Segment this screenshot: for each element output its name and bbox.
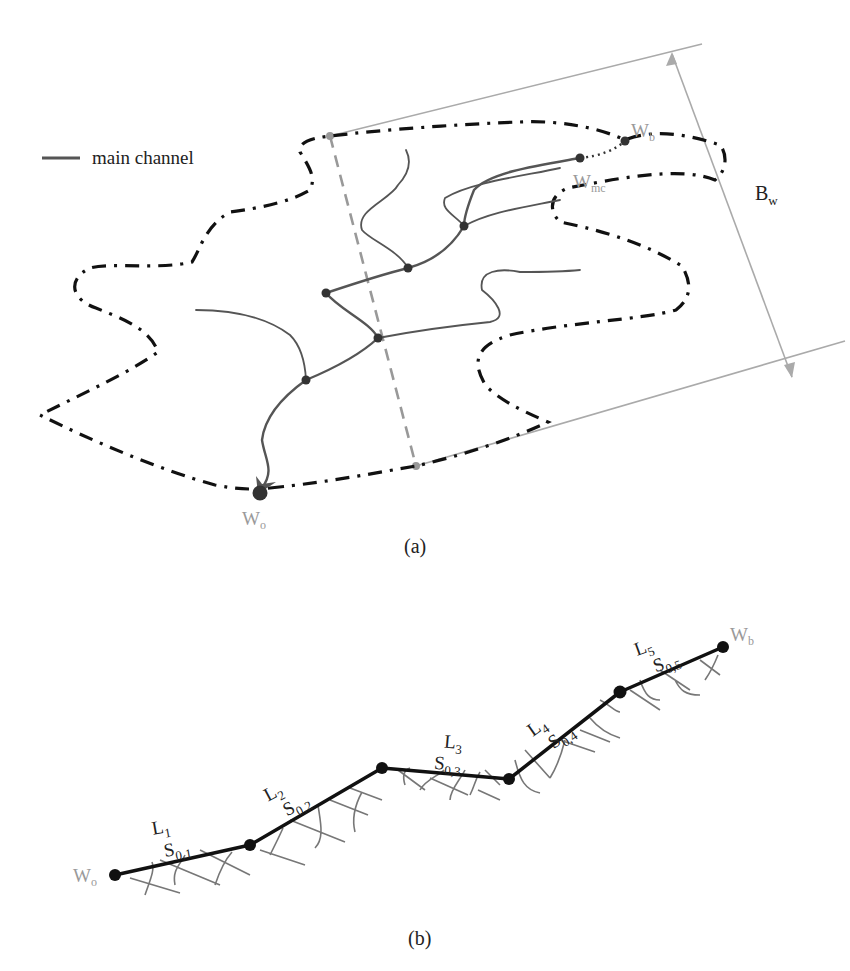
tributary [196, 310, 306, 380]
junction-node [460, 222, 469, 231]
basin-length-transect [330, 136, 416, 466]
main-channel [262, 158, 580, 488]
legend: main channel [42, 147, 194, 168]
tributary [444, 168, 560, 226]
main-channel-end-label: Wmc [573, 171, 606, 195]
profile-node [244, 839, 256, 851]
tributary [464, 200, 560, 226]
ground-hatching [130, 655, 720, 895]
panel-b: Wo Wb L1 S0,1 L2 S0,2 L3 S0,3 L4 S0,4 L5… [73, 624, 754, 950]
outlet-node [253, 486, 268, 501]
caption-a: (a) [404, 535, 426, 558]
profile-start-label: Wo [73, 865, 97, 889]
profile-nodes [109, 641, 729, 881]
segment-3-labels: L3 S0,3 [433, 730, 464, 779]
junction-node [322, 289, 331, 298]
profile-node-start [109, 869, 121, 881]
caption-b: (b) [408, 927, 431, 950]
legend-label: main channel [92, 147, 194, 168]
segment-5-labels: L5 S0,5 [631, 627, 684, 684]
profile-node [614, 686, 627, 699]
lower-extent-line [416, 341, 845, 466]
segment-length-label: L3 [443, 731, 463, 757]
transect-end-top [326, 132, 334, 140]
basin-top-label: Wb [631, 120, 655, 144]
segment-1-labels: L1 S0,1 [150, 812, 193, 866]
width-arrow-line [672, 54, 792, 377]
junction-node [404, 264, 413, 273]
arrowhead-down-icon [784, 362, 795, 378]
segment-4-labels: L4 S0,4 [523, 702, 581, 762]
main-channel-end-node [576, 154, 585, 163]
junction-node [374, 334, 383, 343]
profile-node [503, 773, 515, 785]
channel-extension-dotted [580, 141, 625, 158]
segment-2-labels: L2 S0,2 [260, 769, 315, 828]
arrowhead-up-icon [666, 52, 677, 66]
profile-node [376, 762, 388, 774]
tributaries [196, 150, 580, 380]
tributary [361, 150, 409, 268]
width-label: Bw [755, 182, 778, 208]
profile-end-label: Wb [730, 624, 754, 648]
width-dimension: Bw [330, 44, 845, 466]
panel-a: main channel Bw [40, 44, 845, 558]
outlet-label: Wo [242, 508, 266, 532]
longitudinal-profile [115, 647, 723, 875]
watershed-boundary [40, 122, 725, 489]
profile-node-end [717, 641, 729, 653]
figure-canvas: main channel Bw [0, 0, 850, 971]
junction-node [302, 376, 311, 385]
segment-slope-label: S0,1 [162, 836, 193, 865]
basin-top-node [621, 137, 630, 146]
